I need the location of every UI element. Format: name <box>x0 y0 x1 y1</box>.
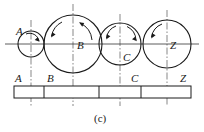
circle-label-z: Z <box>170 40 176 51</box>
segment-bar <box>14 86 191 98</box>
circle-label-a: A <box>16 26 23 37</box>
axis-label-c: C <box>131 73 138 84</box>
circle-label-c: C <box>123 52 130 63</box>
circle-label-b: B <box>77 40 84 51</box>
axis-label-b: B <box>47 73 54 84</box>
rotation-arrowhead-b-right <box>79 22 84 27</box>
rotation-arrowhead-b-left <box>51 32 56 37</box>
figure-caption: (c) <box>94 113 106 124</box>
rotation-arrowhead-z-left <box>151 33 155 38</box>
axis-label-a: A <box>15 73 22 84</box>
axis-label-z: Z <box>180 73 186 84</box>
segment-bar-outline <box>14 86 191 98</box>
rotation-arrowhead-c-left <box>106 34 110 39</box>
figure-container: A B C Z A B C Z (c) <box>0 0 204 132</box>
